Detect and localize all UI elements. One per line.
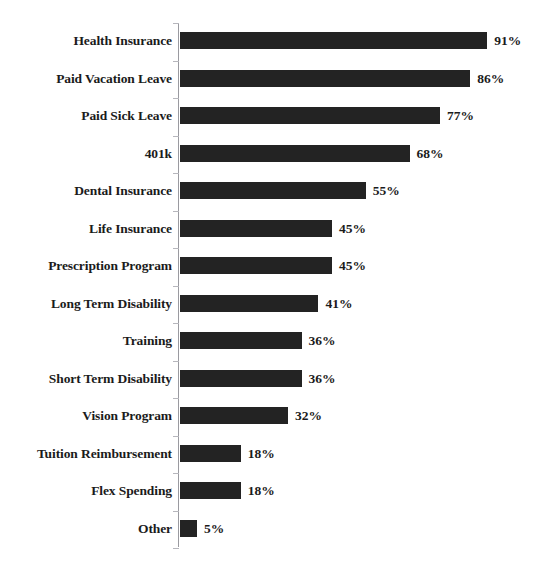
bar-row: Short Term Disability36% — [0, 360, 548, 398]
bar-track: 41% — [180, 285, 548, 323]
bar-category-label: Short Term Disability — [0, 360, 172, 398]
bar-category-label: Paid Sick Leave — [0, 97, 172, 135]
bar-value-label: 68% — [417, 145, 444, 162]
bar-value-label: 18% — [248, 482, 275, 499]
bar-value-label: 41% — [325, 295, 352, 312]
bar — [180, 220, 332, 237]
bar-track: 77% — [180, 97, 548, 135]
bar-track: 36% — [180, 360, 548, 398]
bar — [180, 182, 366, 199]
bar-value-label: 32% — [295, 407, 322, 424]
bar-row: Dental Insurance55% — [0, 172, 548, 210]
bar — [180, 332, 302, 349]
bar-row: 401k68% — [0, 135, 548, 173]
bar-row: Health Insurance91% — [0, 22, 548, 60]
bar-category-label: Training — [0, 322, 172, 360]
bar-row: Flex Spending18% — [0, 472, 548, 510]
bar-value-label: 77% — [447, 107, 474, 124]
bar-row: Prescription Program45% — [0, 247, 548, 285]
bar-row: Training36% — [0, 322, 548, 360]
bar — [180, 370, 302, 387]
bar-value-label: 45% — [339, 257, 366, 274]
bar-value-label: 91% — [494, 32, 521, 49]
bar-track: 86% — [180, 60, 548, 98]
bar-category-label: Flex Spending — [0, 472, 172, 510]
bar-category-label: Life Insurance — [0, 210, 172, 248]
bar-track: 68% — [180, 135, 548, 173]
bar-row: Paid Sick Leave77% — [0, 97, 548, 135]
plot-area: Health Insurance91%Paid Vacation Leave86… — [0, 22, 548, 550]
bar-track: 45% — [180, 210, 548, 248]
bar-category-label: Health Insurance — [0, 22, 172, 60]
bar — [180, 482, 241, 499]
bar-value-label: 18% — [248, 445, 275, 462]
bar-track: 55% — [180, 172, 548, 210]
bar-value-label: 36% — [309, 370, 336, 387]
bar-category-label: Tuition Reimbursement — [0, 435, 172, 473]
bar-category-label: Dental Insurance — [0, 172, 172, 210]
bar-category-label: 401k — [0, 135, 172, 173]
bar-value-label: 5% — [204, 520, 224, 537]
bar-category-label: Other — [0, 510, 172, 548]
chart-title — [0, 0, 548, 1]
bar-row: Tuition Reimbursement18% — [0, 435, 548, 473]
bar-row: Vision Program32% — [0, 397, 548, 435]
bar-track: 18% — [180, 472, 548, 510]
bar-value-label: 86% — [477, 70, 504, 87]
bar-value-label: 55% — [373, 182, 400, 199]
bar — [180, 257, 332, 274]
bar — [180, 520, 197, 537]
bar — [180, 70, 470, 87]
bar-value-label: 36% — [309, 332, 336, 349]
bar — [180, 445, 241, 462]
bar-track: 5% — [180, 510, 548, 548]
bar — [180, 407, 288, 424]
bar-row: Paid Vacation Leave86% — [0, 60, 548, 98]
bar-category-label: Paid Vacation Leave — [0, 60, 172, 98]
bar-category-label: Vision Program — [0, 397, 172, 435]
axis-tick — [173, 548, 179, 549]
bar-row: Other5% — [0, 510, 548, 548]
bar — [180, 145, 410, 162]
bar-row: Life Insurance45% — [0, 210, 548, 248]
bar-value-label: 45% — [339, 220, 366, 237]
bar — [180, 107, 440, 124]
bar-track: 32% — [180, 397, 548, 435]
bar-track: 36% — [180, 322, 548, 360]
bar-category-label: Long Term Disability — [0, 285, 172, 323]
bar-track: 91% — [180, 22, 548, 60]
bar-chart: Health Insurance91%Paid Vacation Leave86… — [0, 0, 548, 561]
bar-track: 45% — [180, 247, 548, 285]
bar — [180, 32, 487, 49]
bar-row: Long Term Disability41% — [0, 285, 548, 323]
bar — [180, 295, 318, 312]
bar-track: 18% — [180, 435, 548, 473]
bar-category-label: Prescription Program — [0, 247, 172, 285]
